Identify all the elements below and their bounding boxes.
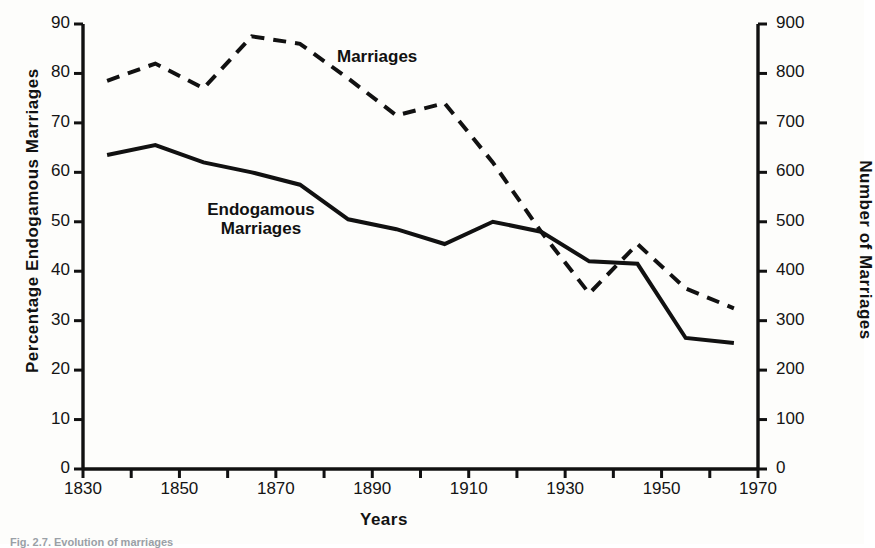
axis-lines: [83, 24, 758, 469]
data-series-layer: [107, 36, 734, 343]
axis-tickmarks: [74, 24, 767, 478]
figure-caption: Fig. 2.7. Evolution of marriages: [10, 536, 173, 548]
